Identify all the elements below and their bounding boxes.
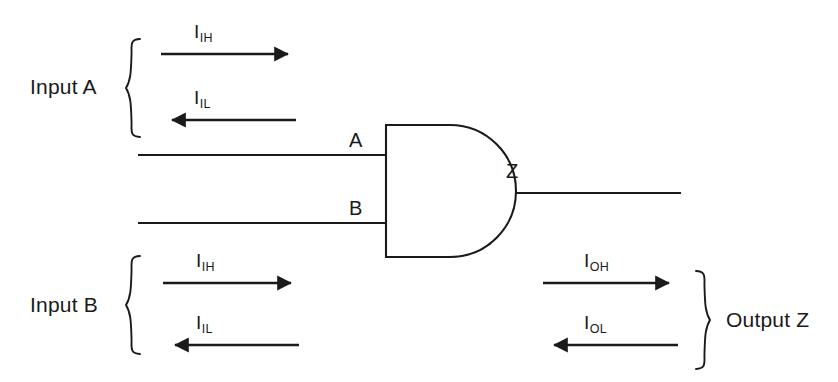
brace-input-a xyxy=(126,39,140,137)
current-label-iih-input-b: IIH xyxy=(196,251,214,270)
current-label-ioh-output-z: IOH xyxy=(584,251,609,270)
group-label-output-z: Output Z xyxy=(726,309,809,330)
current-symbol: I xyxy=(194,21,199,42)
group-label-input-a: Input A xyxy=(30,76,97,97)
current-symbol: I xyxy=(194,87,199,108)
current-subscript: OL xyxy=(590,322,607,336)
pin-label-z: Z xyxy=(506,161,518,181)
current-subscript: IH xyxy=(202,260,215,274)
current-subscript: IL xyxy=(202,322,213,336)
current-symbol: I xyxy=(584,312,589,333)
current-label-iil-input-a: IIL xyxy=(194,88,210,107)
current-subscript: IL xyxy=(200,97,211,111)
figure-canvas: Input A Input B Output Z A B Z IIH IIL I… xyxy=(0,0,838,382)
current-subscript: OH xyxy=(590,260,609,274)
current-subscript: IH xyxy=(200,31,213,45)
current-label-iih-input-a: IIH xyxy=(194,22,212,41)
pin-label-a: A xyxy=(349,130,362,150)
and-gate-body xyxy=(386,125,516,257)
current-label-iol-output-z: IOL xyxy=(584,313,607,332)
current-label-iil-input-b: IIL xyxy=(196,313,212,332)
current-symbol: I xyxy=(196,312,201,333)
pin-label-b: B xyxy=(349,198,362,218)
brace-input-b xyxy=(126,256,140,354)
current-symbol: I xyxy=(196,250,201,271)
gate-current-diagram xyxy=(0,0,838,382)
brace-output-z xyxy=(696,271,710,369)
group-label-input-b: Input B xyxy=(30,294,98,315)
current-symbol: I xyxy=(584,250,589,271)
